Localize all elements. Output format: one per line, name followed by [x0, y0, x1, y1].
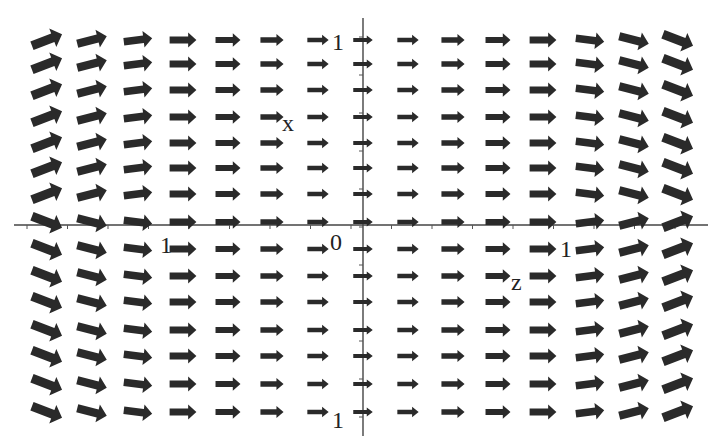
tick-label-left: 1 — [160, 233, 172, 257]
right-arrow-icon — [75, 371, 109, 396]
right-arrow-icon — [216, 57, 241, 71]
right-arrow-icon — [216, 187, 241, 201]
right-arrow-icon — [216, 83, 241, 97]
right-arrow-icon — [75, 77, 109, 102]
right-arrow-icon — [307, 297, 328, 308]
right-arrow-icon — [575, 292, 605, 312]
right-arrow-icon — [260, 324, 283, 336]
right-arrow-icon — [75, 343, 109, 368]
right-arrow-icon — [659, 49, 696, 79]
right-arrow-icon — [530, 322, 557, 337]
right-arrow-icon — [216, 215, 241, 229]
axes — [14, 18, 708, 436]
right-arrow-icon — [397, 297, 418, 308]
right-arrow-icon — [659, 234, 696, 264]
right-arrow-icon — [28, 261, 65, 291]
right-arrow-icon — [397, 189, 418, 200]
right-arrow-icon — [307, 351, 328, 362]
right-arrow-icon — [170, 214, 197, 229]
right-arrow-icon — [441, 270, 464, 282]
right-arrow-icon — [123, 184, 153, 204]
right-arrow-icon — [441, 216, 464, 228]
right-arrow-icon — [530, 56, 557, 71]
right-arrow-icon — [441, 188, 464, 200]
right-arrow-icon — [617, 130, 651, 155]
right-arrow-icon — [659, 128, 696, 158]
tick-label-right: 1 — [560, 237, 572, 261]
tick-label-top: 1 — [332, 30, 344, 54]
right-arrow-icon — [123, 402, 153, 422]
right-arrow-icon — [28, 75, 65, 105]
right-arrow-icon — [575, 402, 605, 422]
right-arrow-icon — [260, 188, 283, 200]
right-arrow-icon — [123, 158, 153, 178]
right-arrow-icon — [170, 322, 197, 337]
right-arrow-icon — [659, 102, 696, 132]
right-arrow-icon — [575, 158, 605, 178]
right-arrow-icon — [216, 161, 241, 175]
right-arrow-icon — [659, 287, 696, 317]
right-arrow-icon — [397, 85, 418, 96]
right-arrow-icon — [170, 109, 197, 124]
right-arrow-icon — [617, 317, 651, 342]
right-arrow-icon — [441, 324, 464, 336]
right-arrow-icon — [397, 325, 418, 336]
right-arrow-icon — [216, 405, 241, 419]
right-arrow-icon — [659, 207, 696, 237]
right-arrow-icon — [216, 269, 241, 283]
right-arrow-icon — [397, 59, 418, 70]
right-arrow-icon — [659, 153, 696, 183]
right-arrow-icon — [123, 30, 153, 50]
right-arrow-icon — [307, 271, 328, 282]
right-arrow-icon — [486, 405, 511, 419]
right-arrow-icon — [575, 239, 605, 259]
right-arrow-icon — [260, 162, 283, 174]
right-arrow-icon — [530, 186, 557, 201]
right-arrow-icon — [28, 128, 65, 158]
right-arrow-icon — [575, 346, 605, 366]
right-arrow-icon — [216, 295, 241, 309]
right-arrow-icon — [28, 234, 65, 264]
right-arrow-icon — [486, 110, 511, 124]
right-arrow-icon — [486, 269, 511, 283]
right-arrow-icon — [617, 371, 651, 396]
right-arrow-icon — [397, 407, 418, 418]
right-arrow-icon — [170, 160, 197, 175]
right-arrow-icon — [575, 30, 605, 50]
right-arrow-icon — [75, 104, 109, 129]
right-arrow-icon — [123, 239, 153, 259]
right-arrow-icon — [307, 138, 328, 149]
right-arrow-icon — [260, 58, 283, 70]
right-arrow-icon — [441, 350, 464, 362]
right-arrow-icon — [575, 320, 605, 340]
right-arrow-icon — [397, 351, 418, 362]
right-arrow-icon — [659, 261, 696, 291]
right-arrow-icon — [486, 323, 511, 337]
right-arrow-icon — [123, 133, 153, 153]
right-arrow-icon — [486, 349, 511, 363]
right-arrow-icon — [307, 112, 328, 123]
right-arrow-icon — [123, 266, 153, 286]
right-arrow-icon — [216, 33, 241, 47]
right-arrow-icon — [75, 51, 109, 76]
right-arrow-icon — [530, 404, 557, 419]
right-arrow-icon — [397, 271, 418, 282]
right-arrow-icon — [659, 369, 696, 399]
right-arrow-icon — [260, 243, 283, 255]
right-arrow-icon — [441, 378, 464, 390]
right-arrow-icon — [530, 160, 557, 175]
right-arrow-icon — [617, 289, 651, 314]
right-arrow-icon — [28, 315, 65, 345]
right-arrow-icon — [441, 84, 464, 96]
right-arrow-icon — [307, 379, 328, 390]
right-arrow-icon — [486, 83, 511, 97]
right-arrow-icon — [617, 263, 651, 288]
right-arrow-icon — [575, 80, 605, 100]
right-arrow-icon — [659, 341, 696, 371]
right-arrow-icon — [260, 350, 283, 362]
right-arrow-icon — [170, 376, 197, 391]
right-arrow-icon — [486, 57, 511, 71]
right-arrow-icon — [75, 181, 109, 206]
right-arrow-icon — [170, 348, 197, 363]
right-arrow-icon — [28, 153, 65, 183]
